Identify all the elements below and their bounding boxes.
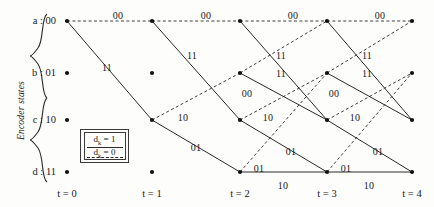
trellis-node-a-t3 xyxy=(325,19,329,23)
trellis-node-d-t2 xyxy=(238,170,242,174)
trellis-diagram: Encoder states a : 00 b : 01 c : 10 d : … xyxy=(0,0,434,207)
trellis-node-c-t0 xyxy=(65,118,69,122)
state-label-d: d : 11 xyxy=(4,166,56,177)
legend-row-dk0: dk = 0 xyxy=(85,146,125,159)
edge-output-label: 00 xyxy=(283,10,303,21)
trellis-node-d-t4 xyxy=(410,170,414,174)
edge-output-label: 10 xyxy=(258,112,278,123)
trellis-node-c-t3 xyxy=(325,118,329,122)
edge-output-label: 00 xyxy=(324,88,344,99)
encoder-states-axis-label: Encoder states xyxy=(16,81,26,140)
trellis-node-d-t3 xyxy=(325,170,329,174)
trellis-edge-b-a-t2 xyxy=(240,21,327,73)
edge-output-label: 11 xyxy=(182,50,202,61)
trellis-node-b-t1 xyxy=(150,71,154,75)
trellis-node-a-t0 xyxy=(65,19,69,23)
edge-output-label: 11 xyxy=(271,50,291,61)
edge-output-label: 11 xyxy=(357,68,377,79)
edge-output-label: 01 xyxy=(281,146,301,157)
trellis-node-c-t2 xyxy=(238,118,242,122)
edge-output-label: 10 xyxy=(173,112,193,123)
state-label-b: b : 01 xyxy=(4,67,56,78)
legend-box: dk = 1 dk = 0 xyxy=(84,132,126,160)
trellis-edge-b-a-t3 xyxy=(327,21,412,73)
edge-output-label: 11 xyxy=(271,68,291,79)
edge-output-label: 01 xyxy=(186,142,206,153)
legend-dk1-value: = 1 xyxy=(101,134,115,144)
legend-dashed-rule xyxy=(87,157,123,158)
time-label-t2: t = 2 xyxy=(220,188,260,199)
time-label-t3: t = 3 xyxy=(307,188,347,199)
edge-output-label: 01 xyxy=(336,163,356,174)
time-label-t4: t = 4 xyxy=(392,188,432,199)
time-label-t0: t = 0 xyxy=(47,188,87,199)
trellis-node-a-t1 xyxy=(150,19,154,23)
edge-output-label: 00 xyxy=(108,10,128,21)
trellis-node-b-t4 xyxy=(410,71,414,75)
edge-output-label: 00 xyxy=(370,10,390,21)
trellis-node-c-t4 xyxy=(410,118,414,122)
encoder-states-brace xyxy=(30,14,47,182)
trellis-node-d-t0 xyxy=(65,170,69,174)
legend-dk0-value: = 0 xyxy=(101,147,115,157)
legend-row-dk1: dk = 1 xyxy=(85,133,125,146)
trellis-node-a-t4 xyxy=(410,19,414,23)
edge-output-label: 01 xyxy=(249,163,269,174)
trellis-edge-a-c-t1 xyxy=(152,21,240,120)
edge-output-label: 10 xyxy=(359,180,379,191)
state-label-a: a : 00 xyxy=(4,15,56,26)
edge-output-label: 00 xyxy=(237,88,257,99)
trellis-node-d-t1 xyxy=(150,170,154,174)
trellis-node-b-t2 xyxy=(238,71,242,75)
trellis-node-c-t1 xyxy=(150,118,154,122)
edge-output-label: 11 xyxy=(97,62,117,73)
trellis-edge-c-b-t1 xyxy=(152,73,240,120)
trellis-node-a-t2 xyxy=(238,19,242,23)
edge-output-label: 10 xyxy=(273,180,293,191)
edge-output-label: 00 xyxy=(196,10,216,21)
edge-output-label: 10 xyxy=(345,112,365,123)
time-label-t1: t = 1 xyxy=(132,188,172,199)
trellis-node-b-t3 xyxy=(325,71,329,75)
trellis-svg-layer xyxy=(0,0,434,207)
state-label-c: c : 10 xyxy=(4,114,56,125)
edge-output-label: 11 xyxy=(357,50,377,61)
edge-output-label: 01 xyxy=(368,146,388,157)
trellis-node-b-t0 xyxy=(65,71,69,75)
